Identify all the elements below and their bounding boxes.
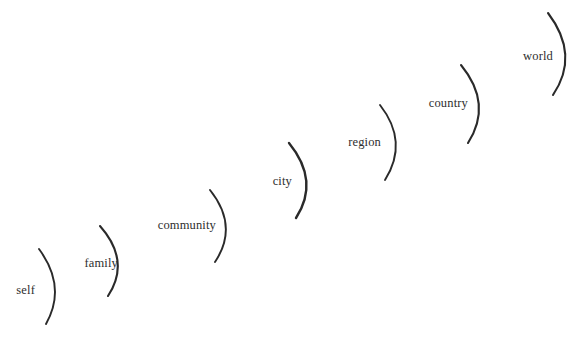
- arc-layer: [0, 0, 587, 343]
- scale-label-region: region: [348, 136, 381, 149]
- scale-label-country: country: [429, 97, 468, 110]
- arc-region: [380, 105, 396, 180]
- arc-self: [39, 249, 55, 324]
- scale-label-city: city: [273, 175, 292, 188]
- scale-label-self: self: [16, 284, 35, 297]
- scale-label-world: world: [523, 50, 553, 63]
- scale-label-community: community: [158, 219, 216, 232]
- scale-diagram: selffamilycommunitycityregioncountryworl…: [0, 0, 587, 343]
- scale-label-family: family: [84, 257, 118, 270]
